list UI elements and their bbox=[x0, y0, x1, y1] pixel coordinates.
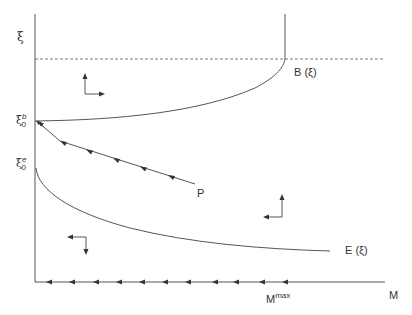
y-tick-xi0-b: ξb0 bbox=[16, 115, 26, 126]
arrow-icon bbox=[140, 167, 147, 172]
vector-arrow-up-right bbox=[83, 73, 106, 97]
arrow-icon bbox=[113, 158, 120, 163]
curve-e-label: E (ξ) bbox=[345, 245, 368, 256]
y-tick-xi0-e: ξe0 bbox=[16, 158, 26, 169]
y-axis-label: ξ bbox=[17, 31, 24, 43]
curve-b bbox=[35, 14, 285, 121]
tick-sup: max bbox=[275, 291, 290, 300]
tick-sub: 0 bbox=[22, 120, 26, 129]
arrow-icon bbox=[60, 141, 67, 146]
phase-diagram bbox=[0, 0, 412, 315]
vector-arrow-up-left bbox=[263, 194, 285, 220]
x-axis-label: M bbox=[389, 290, 398, 301]
tick-sub: 0 bbox=[22, 163, 26, 172]
trajectory-p-label: P bbox=[197, 188, 204, 199]
tick-base: M bbox=[266, 293, 275, 305]
vector-arrow-left-down bbox=[67, 235, 89, 256]
arrow-icon bbox=[86, 150, 93, 155]
curve-b-label: B (ξ) bbox=[294, 67, 317, 78]
trajectory-p bbox=[37, 121, 195, 184]
x-tick-m-max: Mmax bbox=[266, 294, 290, 305]
arrow-icon bbox=[168, 175, 175, 180]
